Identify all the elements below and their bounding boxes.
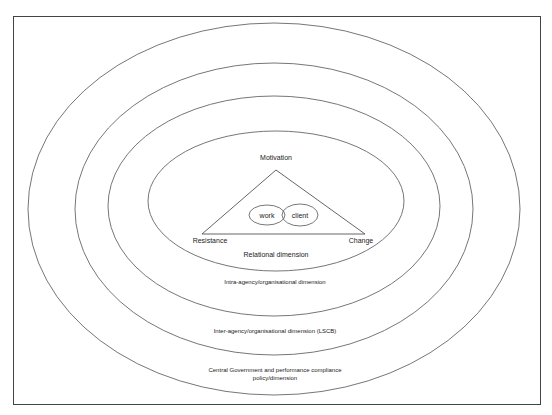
label-change: Change [336, 236, 386, 245]
label-resistance: Resistance [185, 236, 235, 245]
ring-4-central-government [28, 23, 520, 395]
ring-3-inter-agency [75, 63, 473, 355]
label-client: client [285, 211, 315, 220]
label-relational-dimension: Relational dimension [216, 250, 336, 259]
label-work: work [252, 211, 282, 220]
motivation-resistance-change-triangle [202, 170, 365, 234]
label-central-government-line2: policy/dimension [220, 374, 330, 383]
label-motivation: Motivation [246, 153, 306, 162]
label-inter-agency-dimension: Inter-agency/organisational dimension (L… [175, 327, 375, 336]
concentric-dimensions-diagram [0, 0, 552, 415]
label-intra-agency-dimension: Intra-agency/organisational dimension [180, 278, 370, 287]
